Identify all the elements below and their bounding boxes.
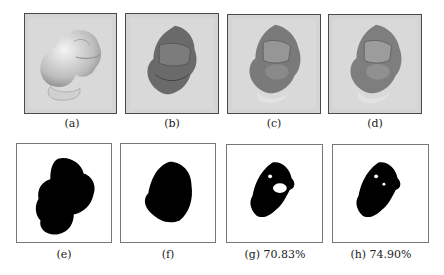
caption-c: (c) — [254, 117, 294, 130]
caption-f: (f) — [148, 248, 188, 261]
gorilla-render-light-image — [25, 14, 116, 113]
panel-h-mask — [332, 144, 429, 243]
panel-e-silhouette — [16, 143, 112, 243]
silhouette-image — [17, 144, 111, 242]
caption-h: (h) 74.90% — [345, 248, 417, 261]
gorilla-render-dark-image — [126, 14, 218, 113]
panel-a-render — [24, 13, 117, 114]
panel-g-mask — [226, 144, 323, 243]
mask-image — [333, 145, 428, 242]
caption-g: (g) 70.83% — [240, 248, 310, 261]
panel-f-silhouette — [120, 143, 216, 243]
silhouette-image — [121, 144, 215, 242]
caption-b: (b) — [152, 117, 192, 130]
caption-d: (d) — [355, 117, 395, 130]
panel-c-render — [227, 14, 321, 114]
caption-e: (e) — [44, 248, 84, 261]
panel-d-render — [328, 14, 422, 114]
panel-b-render — [125, 13, 219, 114]
mask-image — [227, 145, 322, 242]
caption-a: (a) — [52, 117, 92, 130]
gorilla-render-colored-image — [329, 15, 421, 113]
gorilla-render-colored-image — [228, 15, 320, 113]
